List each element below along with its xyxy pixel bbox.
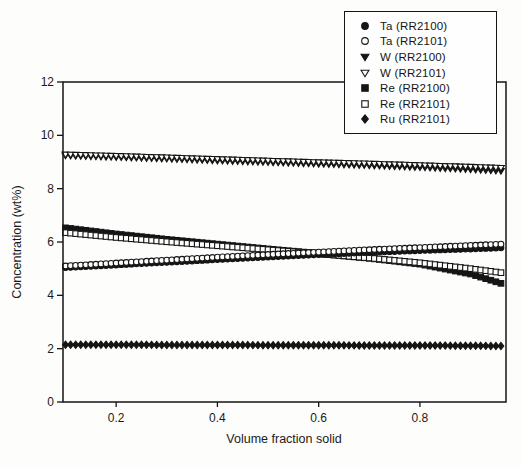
- legend-item: Re (RR2100): [357, 80, 496, 96]
- legend-item-label: Re (RR2101): [380, 98, 450, 110]
- y-axis-title: Concentration (wt%): [10, 185, 24, 298]
- figure: 0.20.40.60.8024681012 Volume fraction so…: [0, 0, 521, 468]
- legend-item: Ta (RR2101): [357, 34, 496, 50]
- y-tick-label: 10: [41, 128, 54, 142]
- legend-item: Ru (RR2101): [357, 111, 496, 127]
- y-tick-label: 2: [47, 342, 54, 356]
- series-ru-rr2101: [63, 341, 504, 350]
- open-circle-icon: [357, 35, 373, 47]
- y-tick-label: 6: [47, 235, 54, 249]
- y-tick-label: 12: [41, 75, 54, 89]
- open-square-icon: [357, 98, 373, 110]
- legend-item: W (RR2101): [357, 65, 496, 81]
- legend-item-label: W (RR2100): [380, 51, 446, 63]
- legend-item: Re (RR2101): [357, 96, 496, 112]
- y-tick-label: 8: [47, 182, 54, 196]
- open-triangle-down-icon: [357, 67, 373, 79]
- legend: Ta (RR2100)Ta (RR2101)W (RR2100)W (RR210…: [344, 11, 497, 134]
- legend-item: Ta (RR2100): [357, 18, 496, 34]
- filled-triangle-down-icon: [357, 51, 373, 63]
- x-tick-label: 0.4: [209, 411, 226, 425]
- legend-item-label: Ta (RR2100): [380, 20, 447, 32]
- legend-item-label: Re (RR2100): [380, 82, 450, 94]
- x-axis-title: Volume fraction solid: [226, 432, 341, 446]
- filled-square-icon: [357, 82, 373, 94]
- filled-circle-icon: [357, 20, 373, 32]
- y-tick-label: 4: [47, 288, 54, 302]
- filled-diamond-icon: [357, 113, 373, 125]
- legend-item: W (RR2100): [357, 49, 496, 65]
- x-tick-label: 0.2: [108, 411, 125, 425]
- legend-item-label: Ta (RR2101): [380, 35, 447, 47]
- x-tick-label: 0.8: [412, 411, 429, 425]
- legend-item-label: Ru (RR2101): [380, 113, 450, 125]
- legend-item-label: W (RR2101): [380, 67, 446, 79]
- series-layer: [62, 152, 504, 349]
- y-tick-label: 0: [47, 395, 54, 409]
- x-tick-label: 0.6: [310, 411, 327, 425]
